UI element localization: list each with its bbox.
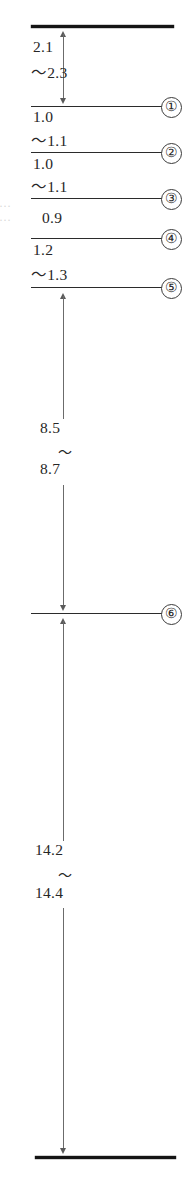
segment-6-bottom-range-separator: 〜: [58, 864, 72, 884]
segment-6-bottom-arrow-shaft-lower: [63, 908, 64, 1150]
segment-1-2-value-min: 1.0: [33, 108, 53, 126]
segment-5-6-range-separator: 〜: [58, 441, 72, 461]
segment-5-6-value-min: 8.5: [40, 419, 60, 437]
segment-3-4-value-min: 0.9: [42, 209, 62, 227]
segment-4-5-value-min: 1.2: [33, 241, 53, 259]
segment-top-value-min: 2.1: [33, 38, 53, 56]
segment-4-5-value-max: 〜1.3: [31, 262, 68, 284]
boundary-marker-1-label: ①: [162, 98, 181, 115]
segment-5-6-arrow-shaft-lower: [63, 485, 64, 607]
segment-6-bottom-value-min: 14.2: [35, 841, 63, 859]
boundary-marker-3: ③: [161, 189, 182, 210]
segment-5-6-arrow-shaft-upper: [63, 296, 64, 419]
boundary-marker-4: ④: [161, 229, 182, 250]
boundary-marker-2: ②: [161, 143, 182, 164]
layer-column-figure: …… ① ② ③ ④ ⑤ ⑥ 2.1 〜2.3 1.0 〜1.1 1.0 〜1.…: [0, 0, 192, 1185]
boundary-line-3: [31, 198, 154, 199]
segment-5-6-value-max: 8.7: [40, 460, 60, 478]
segment-top-value-max: 〜2.3: [31, 60, 68, 82]
segment-6-bottom-arrow-head-down: [60, 1148, 66, 1154]
segment-6-bottom-arrow-shaft-upper: [63, 621, 64, 841]
boundary-line-2: [31, 152, 154, 153]
segment-top-arrow-head-down: [60, 98, 66, 104]
boundary-marker-6-label: ⑥: [162, 605, 181, 622]
boundary-line-4: [31, 238, 154, 239]
boundary-marker-5: ⑤: [161, 278, 182, 299]
boundary-line-5: [31, 287, 154, 288]
segment-6-bottom-value-max: 14.4: [35, 884, 63, 902]
boundary-marker-1: ①: [161, 97, 182, 118]
boundary-marker-2-label: ②: [162, 144, 181, 161]
segment-2-3-value-max: 〜1.1: [31, 174, 68, 196]
boundary-marker-3-label: ③: [162, 190, 181, 207]
segment-1-2-value-max: 〜1.1: [31, 128, 68, 150]
segment-5-6-arrow-head-down: [60, 605, 66, 611]
segment-2-3-value-min: 1.0: [33, 155, 53, 173]
boundary-marker-4-label: ④: [162, 230, 181, 247]
clipped-edge-text-fragment: ……: [0, 196, 11, 308]
boundary-marker-6: ⑥: [161, 604, 182, 625]
boundary-line-top: [31, 25, 174, 28]
boundary-marker-5-label: ⑤: [162, 279, 181, 296]
boundary-line-6: [31, 613, 154, 614]
boundary-line-bottom: [35, 1156, 176, 1159]
